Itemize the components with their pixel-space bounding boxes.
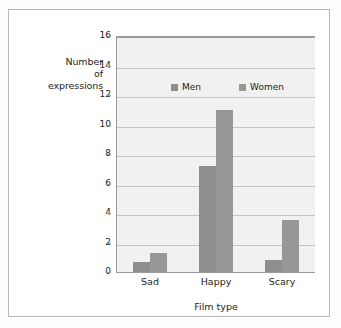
figure-frame: Number of expressions 1614121086420 MenW… [8, 9, 330, 317]
bar-happy-men [199, 166, 216, 272]
x-axis-label: Film type [117, 301, 315, 312]
y-axis-tick-mark [107, 184, 111, 185]
y-axis-tick-label: 12 [89, 89, 111, 99]
chart-legend: MenWomen [171, 82, 284, 92]
y-axis-tick-label: 8 [89, 148, 111, 158]
y-axis-tick-mark [107, 213, 111, 214]
gridline [117, 68, 315, 69]
bar-sad-women [150, 253, 167, 272]
legend-swatch-women-icon [239, 84, 246, 91]
y-axis-tick-label: 6 [89, 178, 111, 188]
y-axis-tick-mark [107, 272, 111, 273]
legend-entry-men: Men [171, 82, 201, 92]
y-axis-tick-mark [107, 36, 111, 37]
y-axis-tick-label: 10 [89, 119, 111, 129]
y-axis-tick-mark [107, 95, 111, 96]
bar-scary-men [265, 260, 282, 272]
gridline [117, 97, 315, 98]
y-axis-tick-mark [107, 243, 111, 244]
x-axis-category-scary: Scary [249, 276, 315, 287]
y-axis-tick-mark [107, 66, 111, 67]
y-axis-tick-label: 0 [89, 266, 111, 276]
x-axis-category-happy: Happy [183, 276, 249, 287]
y-axis-tick-mark [107, 154, 111, 155]
bar-happy-women [216, 110, 233, 272]
y-axis-tick-label: 14 [89, 60, 111, 70]
bar-scary-women [282, 220, 299, 272]
y-axis-tick-label: 2 [89, 237, 111, 247]
legend-label-men: Men [182, 82, 201, 92]
y-axis-tick-label: 4 [89, 207, 111, 217]
bar-sad-men [133, 262, 150, 272]
chart-figure: Number of expressions 1614121086420 MenW… [0, 0, 341, 328]
y-axis-tick-mark [107, 125, 111, 126]
plot-area [117, 36, 315, 272]
y-axis-tick-label: 16 [89, 30, 111, 40]
legend-entry-women: Women [239, 82, 284, 92]
legend-label-women: Women [250, 82, 284, 92]
y-axis-ticks: 1614121086420 [85, 36, 111, 272]
x-axis-category-sad: Sad [117, 276, 183, 287]
legend-swatch-men-icon [171, 84, 178, 91]
